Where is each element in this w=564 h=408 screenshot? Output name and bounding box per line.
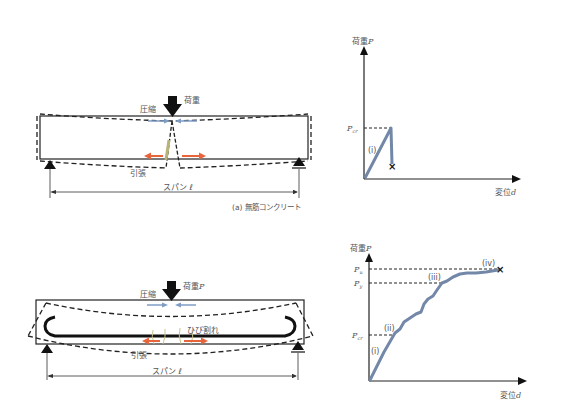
stage-ii-label: (ii) bbox=[384, 324, 395, 333]
pcr-label: Pcr bbox=[346, 124, 358, 134]
caption-a: (a) 無筋コンクリート bbox=[232, 202, 301, 212]
beam-diagram-reinforced: ひび割れ 荷重P 圧縮 引張 スパン ℓ bbox=[28, 281, 313, 380]
y-axis-label: 荷重P bbox=[350, 243, 372, 253]
pin-support-icon bbox=[44, 160, 56, 169]
failure-marker-icon: × bbox=[388, 161, 396, 172]
stage-iv-label: (iv) bbox=[482, 259, 495, 268]
crack-mark bbox=[166, 140, 169, 160]
stage-i-label: (i) bbox=[368, 146, 376, 155]
x-axis-arrow-icon bbox=[518, 377, 527, 385]
load-arrow-icon bbox=[163, 96, 182, 117]
tension-label: 引張 bbox=[131, 351, 147, 360]
x-axis-arrow-icon bbox=[512, 175, 521, 183]
failure-marker-icon: × bbox=[496, 264, 504, 275]
y-axis-arrow-icon bbox=[360, 46, 368, 55]
y-axis-label: 荷重P bbox=[352, 36, 374, 46]
roller-support-icon bbox=[291, 341, 305, 352]
compression-arrows-icon bbox=[147, 303, 196, 308]
deflected-ends bbox=[37, 116, 311, 160]
pin-support-icon bbox=[41, 344, 53, 353]
tension-label: 引張 bbox=[130, 169, 146, 178]
beam-body bbox=[40, 116, 308, 159]
load-label: 荷重 bbox=[184, 95, 200, 105]
figure-canvas: 荷重 圧縮 引張 スパン ℓ (a) 無筋コンクリート bbox=[0, 0, 564, 408]
py-label: Py bbox=[353, 279, 362, 290]
span-label: スパン ℓ bbox=[163, 183, 193, 192]
deflected-top-edge bbox=[40, 114, 308, 121]
stage-i-label: (i) bbox=[371, 347, 379, 356]
load-displacement-graph-reinforced: 荷重P 変位d Pu Py Pcr (i) (ii) (iii) (iv) × bbox=[350, 243, 527, 400]
load-displacement-graph-plain: 荷重P 変位d Pcr (i) × bbox=[346, 36, 521, 197]
compression-label: 圧縮 bbox=[140, 289, 156, 299]
pcr-label: Pcr bbox=[351, 331, 363, 341]
stage-iii-label: (iii) bbox=[428, 273, 441, 282]
load-label: 荷重P bbox=[183, 281, 205, 291]
deflected-top-edge bbox=[46, 303, 296, 317]
rebar bbox=[45, 317, 295, 336]
y-axis-arrow-icon bbox=[365, 253, 373, 262]
x-axis-label: 変位d bbox=[500, 390, 521, 400]
beam-diagram-plain: 荷重 圧縮 引張 スパン ℓ bbox=[37, 95, 311, 198]
compression-label: 圧縮 bbox=[140, 104, 156, 114]
deflected-bottom-edge bbox=[40, 161, 308, 168]
span-label: スパン ℓ bbox=[152, 367, 182, 376]
load-arrow-icon bbox=[162, 281, 181, 301]
pu-label: Pu bbox=[353, 265, 363, 275]
x-axis-label: 変位d bbox=[495, 187, 516, 197]
crack-label: ひび割れ bbox=[187, 325, 219, 335]
deflected-bottom-edge bbox=[28, 336, 313, 354]
